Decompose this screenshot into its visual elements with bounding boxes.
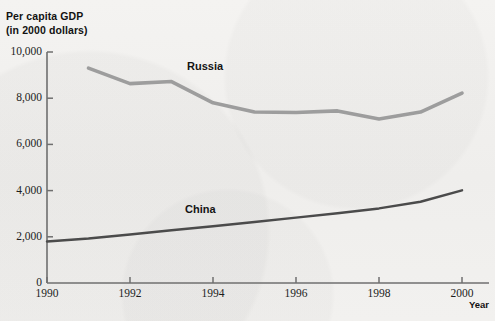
series-line-russia <box>89 68 463 119</box>
y-tick-label-4000: 4,000 <box>0 184 42 196</box>
chart-figure: Per capita GDP (in 2000 dollars) 10,0008… <box>0 0 495 321</box>
x-tick-label-1996: 1996 <box>266 287 326 299</box>
y-tick-label-10000: 10,000 <box>0 45 42 57</box>
x-tick-label-2000: 2000 <box>432 287 492 299</box>
series-label-china: China <box>185 203 216 215</box>
y-tick-label-8000: 8,000 <box>0 91 42 103</box>
plot-area <box>0 0 495 321</box>
series-line-china <box>47 190 462 241</box>
x-tick-label-1992: 1992 <box>100 287 160 299</box>
y-tick-label-6000: 6,000 <box>0 137 42 149</box>
x-tick-label-1990: 1990 <box>17 287 77 299</box>
x-tick-label-1998: 1998 <box>349 287 409 299</box>
series-label-russia: Russia <box>187 60 223 72</box>
x-axis-title: Year <box>469 299 489 310</box>
y-tick-label-2000: 2,000 <box>0 230 42 242</box>
tick-marks <box>47 52 462 283</box>
x-tick-label-1994: 1994 <box>183 287 243 299</box>
data-series <box>47 68 462 241</box>
axis-lines <box>47 52 489 283</box>
